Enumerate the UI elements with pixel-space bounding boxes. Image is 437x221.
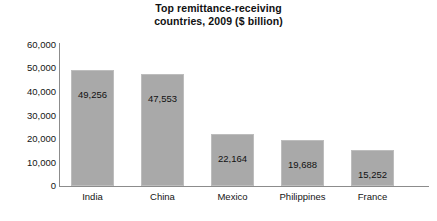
chart-title-line-1: Top remittance-receiving — [0, 2, 437, 15]
x-tick-label-india: India — [60, 191, 125, 203]
bar-chart-figure: Top remittance-receiving countries, 2009… — [0, 0, 437, 221]
bar-china[interactable] — [141, 74, 184, 186]
bar-value-india: 49,256 — [71, 89, 114, 100]
bar-group-philippines[interactable]: 19,688 — [281, 140, 324, 186]
y-tick-label-30000: 30,000 — [2, 111, 56, 121]
bar-group-mexico[interactable]: 22,164 — [211, 134, 254, 186]
plot-area: 49,256 47,553 22,164 19,688 15,252 — [60, 45, 429, 186]
y-axis-tick-labels: 60,000 50,000 40,000 30,000 20,000 10,00… — [0, 0, 56, 221]
bar-india[interactable] — [71, 70, 114, 186]
bar-value-france: 15,252 — [351, 169, 394, 180]
chart-title-line-2: countries, 2009 ($ billion) — [0, 15, 437, 28]
y-tick-label-10000: 10,000 — [2, 158, 56, 168]
x-axis-tick-labels: India China Mexico Philippines France — [60, 191, 429, 207]
x-tick-label-mexico: Mexico — [200, 191, 265, 203]
y-tick-label-60000: 60,000 — [2, 40, 56, 50]
y-tick-label-50000: 50,000 — [2, 63, 56, 73]
bar-value-china: 47,553 — [141, 93, 184, 104]
bar-group-france[interactable]: 15,252 — [351, 150, 394, 186]
bar-value-philippines: 19,688 — [281, 159, 324, 170]
y-tick-label-40000: 40,000 — [2, 87, 56, 97]
bar-group-china[interactable]: 47,553 — [141, 74, 184, 186]
chart-title: Top remittance-receiving countries, 2009… — [0, 2, 437, 28]
x-axis-line — [59, 186, 429, 187]
x-tick-label-france: France — [340, 191, 405, 203]
bar-value-mexico: 22,164 — [211, 153, 254, 164]
bar-group-india[interactable]: 49,256 — [71, 70, 114, 186]
bar-france[interactable] — [351, 150, 394, 186]
y-tick-label-20000: 20,000 — [2, 134, 56, 144]
y-tick-label-0: 0 — [2, 181, 56, 191]
x-tick-label-china: China — [130, 191, 195, 203]
x-tick-label-philippines: Philippines — [270, 191, 335, 203]
